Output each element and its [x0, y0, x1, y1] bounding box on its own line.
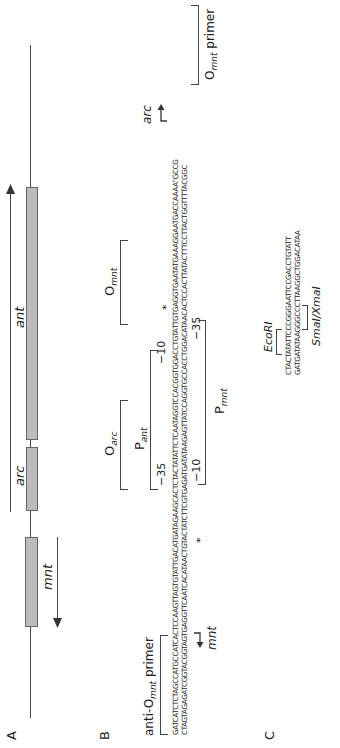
panel-label-c: C	[262, 731, 277, 740]
panel-label-b: B	[97, 731, 112, 740]
ecori-bracket	[276, 329, 282, 355]
ecori-label: EcoRI	[262, 321, 275, 352]
arrowhead-left-icon	[53, 618, 62, 628]
arc-ant-transcript-line	[10, 190, 11, 512]
gene-box-arc	[26, 447, 38, 511]
gene-box-ant	[26, 187, 38, 440]
omnt-primer-label: Omnt primer	[203, 9, 219, 80]
omnt-primer-bracket	[191, 5, 199, 85]
figure: A B C arc ant mnt GATCATCTCTAGCCATGCCATC…	[0, 0, 340, 748]
arc-start-label: arc	[140, 105, 154, 124]
anti-omnt-primer-bracket	[160, 635, 168, 735]
gene-label-arc: arc	[12, 466, 27, 486]
smai-xmai-label: SmaI/XmaI	[310, 286, 323, 346]
gene-label-ant: ant	[12, 307, 27, 328]
p-mnt-bracket	[198, 320, 206, 485]
o-mnt-bracket	[120, 240, 128, 325]
arrowhead-right-icon	[6, 184, 15, 194]
o-mnt-label: Omnt	[102, 268, 119, 296]
panel-label-a: A	[4, 731, 19, 740]
gene-box-mnt	[25, 537, 38, 627]
sequence-bottom-strand: CTAGTAGAGATCGGTACGGTAGTGAGGTTCAATCACATAA…	[180, 165, 189, 735]
smai-xmai-bracket	[302, 305, 308, 330]
o-arc-bracket	[120, 400, 128, 490]
p-ant-minus35: −35	[155, 463, 168, 486]
star-marker-1: *	[194, 538, 207, 544]
arc-start-arrow-icon	[156, 104, 168, 122]
gene-label-mnt: mnt	[40, 564, 55, 590]
anti-omnt-primer-label: anti-Omnt primer	[142, 637, 158, 736]
p-mnt-label: Pmnt	[212, 388, 229, 414]
p-ant-minus10: −10	[155, 341, 168, 364]
star-marker-2: *	[160, 305, 173, 311]
sequence-top-strand: GATCATCTCTAGCCATGCCATCACTCCAAGTTAGTGTATT…	[171, 159, 180, 735]
linker-bottom-strand: GATGATATAAGGGCCCTTAAGGCTGGACATAA	[293, 231, 302, 375]
mnt-start-label: mnt	[205, 626, 219, 650]
linker-top-strand: CTACTATATTCCCGGGAATTCCGACCTGTATT	[284, 236, 293, 375]
mnt-transcript-line	[57, 537, 58, 622]
o-arc-label: Oarc	[102, 432, 119, 456]
p-ant-label: Pant	[132, 427, 149, 450]
